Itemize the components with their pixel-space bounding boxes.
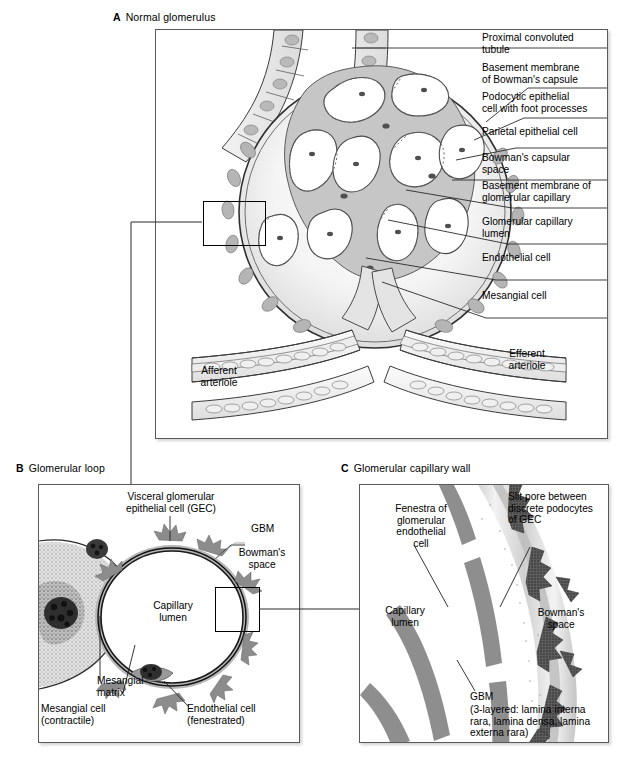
label-afferent-arteriole: Afferent arteriole <box>180 365 258 388</box>
label-proximal-convoluted-tubule: Proximal convoluted tubule <box>482 32 618 55</box>
panel-a-inset-box[interactable] <box>203 201 266 246</box>
panel-b-frame: Visceral glomerular epithelial cell (GEC… <box>38 484 300 743</box>
label-basement-membrane-bowmans-capsule: Basement membrane of Bowman's capsule <box>482 62 618 85</box>
panel-a-title: Normal glomerulus <box>126 11 216 23</box>
panel-c-letter: C <box>341 462 349 474</box>
panel-a-heading: ANormal glomerulus <box>113 11 216 23</box>
label-bowmans-space-b: Bowman's space <box>227 547 297 570</box>
label-gbm-c: GBM <box>470 691 530 703</box>
label-capillary-lumen-c: Capillary lumen <box>366 605 444 628</box>
label-mesangial-matrix: Mesangial matrix <box>97 675 183 698</box>
label-mesangial-cell: Mesangial cell <box>482 290 618 302</box>
panel-a-letter: A <box>113 11 121 23</box>
label-mesangial-cell-contractile: Mesangial cell (contractile) <box>41 703 151 726</box>
panel-b-title: Glomerular loop <box>29 462 105 474</box>
label-endothelial-cell: Endothelial cell <box>482 252 618 264</box>
label-visceral-glomerular-epithelial-cell: Visceral glomerular epithelial cell (GEC… <box>93 491 249 514</box>
label-capillary-lumen-b: Capillary lumen <box>135 600 211 623</box>
panel-c-title: Glomerular capillary wall <box>354 462 471 474</box>
label-gbm-b: GBM <box>251 523 299 535</box>
label-fenestra-glomerular-endothelial-cell: Fenestra of glomerular endothelial cell <box>376 503 466 549</box>
label-bowmans-capsular-space: Bowman's capsular space <box>482 152 618 175</box>
label-slit-pore: Slit pore between discrete podocytes of … <box>508 491 609 526</box>
panel-c-frame: Fenestra of glomerular endothelial cell … <box>359 484 609 743</box>
figure-root: ANormal glomerulus <box>0 0 620 761</box>
label-gbm-detail: (3-layered: lamina interna rara, lamina … <box>470 704 609 739</box>
label-podocytic-epithelial-cell: Podocytic epithelial cell with foot proc… <box>482 91 618 114</box>
panel-b-heading: BGlomerular loop <box>16 462 105 474</box>
label-glomerular-capillary-lumen: Glomerular capillary lumen <box>482 216 618 239</box>
label-basement-membrane-glomerular-capillary: Basement membrane of glomerular capillar… <box>482 180 618 203</box>
label-efferent-arteriole: Efferent arteriole <box>488 348 566 371</box>
label-parietal-epithelial-cell: Parietal epithelial cell <box>482 126 618 138</box>
label-endothelial-cell-fenestrated: Endothelial cell (fenestrated) <box>187 703 299 726</box>
panel-b-letter: B <box>16 462 24 474</box>
panel-c-heading: CGlomerular capillary wall <box>341 462 471 474</box>
panel-b-inset-box[interactable] <box>215 587 260 632</box>
label-bowmans-space-c: Bowman's space <box>524 607 598 630</box>
